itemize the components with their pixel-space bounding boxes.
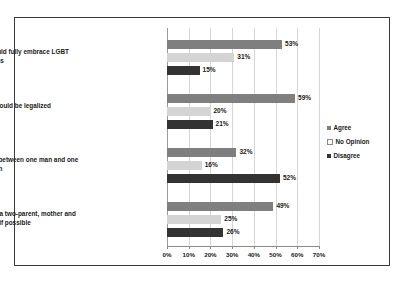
bar-no-opinion[interactable] — [167, 215, 221, 224]
bar-value-label: 52% — [283, 173, 296, 183]
bar-groups: 53%31%15%59%20%21%32%16%52%49%25%26% — [167, 28, 319, 246]
legend-swatch-icon — [327, 126, 331, 130]
legend-swatch-icon — [327, 154, 331, 158]
gridline — [319, 28, 320, 246]
x-tick-label: 60% — [291, 251, 303, 258]
bar-row: 31% — [167, 53, 319, 62]
x-axis-line — [167, 246, 319, 247]
x-tick-mark — [210, 246, 211, 249]
bar-agree[interactable] — [167, 40, 282, 49]
bar-value-label: 20% — [213, 106, 226, 116]
bar-row: 25% — [167, 215, 319, 224]
bar-group: 53%31%15% — [167, 40, 319, 80]
bar-disagree[interactable] — [167, 120, 213, 129]
legend-label: No Opinion — [336, 138, 370, 145]
bar-value-label: 26% — [226, 227, 239, 237]
bar-no-opinion[interactable] — [167, 107, 210, 116]
x-tick-label: 20% — [204, 251, 216, 258]
bar-row: 59% — [167, 94, 319, 103]
category-label: Children ought to be raised in a two-par… — [0, 210, 79, 227]
bar-disagree[interactable] — [167, 66, 200, 75]
bar-row: 20% — [167, 107, 319, 116]
bar-row: 49% — [167, 202, 319, 211]
bar-value-label: 21% — [216, 119, 229, 129]
legend-swatch-icon — [327, 139, 333, 145]
x-tick-label: 70% — [313, 251, 325, 258]
plot-area: 53%31%15%59%20%21%32%16%52%49%25%26% — [167, 28, 319, 246]
bar-value-label: 49% — [276, 201, 289, 211]
bar-value-label: 25% — [224, 214, 237, 224]
bar-value-label: 59% — [298, 93, 311, 103]
bar-no-opinion[interactable] — [167, 53, 234, 62]
legend-label: Disagree — [334, 152, 361, 159]
x-tick-label: 40% — [248, 251, 260, 258]
bar-row: 26% — [167, 228, 319, 237]
x-tick-label: 50% — [269, 251, 281, 258]
chart-frame: 53%31%15%59%20%21%32%16%52%49%25%26% Rel… — [14, 17, 390, 266]
bar-row: 32% — [167, 148, 319, 157]
x-tick-label: 10% — [183, 251, 195, 258]
legend-item-disagree[interactable]: Disagree — [327, 152, 389, 159]
bar-value-label: 15% — [203, 65, 216, 75]
bar-agree[interactable] — [167, 202, 273, 211]
category-label: Marriage is only a relationship between … — [0, 156, 79, 173]
x-tick-label: 30% — [226, 251, 238, 258]
bar-group: 32%16%52% — [167, 148, 319, 188]
category-label: Same sex marriage should be legalized — [0, 102, 79, 111]
x-tick-mark — [254, 246, 255, 249]
bar-group: 49%25%26% — [167, 202, 319, 242]
bar-agree[interactable] — [167, 94, 295, 103]
x-tick-mark — [189, 246, 190, 249]
bar-disagree[interactable] — [167, 174, 280, 183]
chart-legend: AgreeNo OpinionDisagree — [327, 124, 389, 166]
bar-value-label: 53% — [285, 39, 298, 49]
bar-group: 59%20%21% — [167, 94, 319, 134]
bar-no-opinion[interactable] — [167, 161, 202, 170]
bar-value-label: 32% — [239, 147, 252, 157]
x-tick-mark — [232, 246, 233, 249]
bar-row: 53% — [167, 40, 319, 49]
x-tick-mark — [297, 246, 298, 249]
bar-agree[interactable] — [167, 148, 236, 157]
bar-disagree[interactable] — [167, 228, 223, 237]
category-label: Religious communities should fully embra… — [0, 48, 79, 65]
x-tick-mark — [276, 246, 277, 249]
x-tick-mark — [319, 246, 320, 249]
bar-row: 52% — [167, 174, 319, 183]
bar-row: 16% — [167, 161, 319, 170]
x-tick-label: 0% — [163, 251, 172, 258]
bar-row: 15% — [167, 66, 319, 75]
legend-item-no-opinion[interactable]: No Opinion — [327, 138, 389, 145]
bar-row: 21% — [167, 120, 319, 129]
bar-value-label: 31% — [237, 52, 250, 62]
legend-item-agree[interactable]: Agree — [327, 124, 389, 131]
legend-label: Agree — [334, 124, 352, 131]
bar-value-label: 16% — [205, 160, 218, 170]
x-tick-mark — [167, 246, 168, 249]
